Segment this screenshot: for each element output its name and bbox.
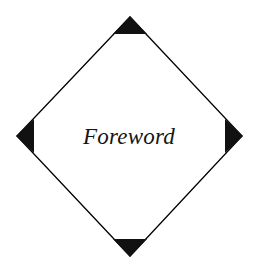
left-vertex-marker-icon [16, 119, 34, 153]
diamond-diagram: Foreword [0, 0, 258, 266]
top-vertex-marker-icon [113, 16, 147, 34]
diamond-center-label: Foreword [82, 124, 175, 149]
diagram-canvas: Foreword [0, 0, 258, 266]
right-vertex-marker-icon [225, 119, 243, 153]
bottom-vertex-marker-icon [113, 239, 147, 257]
